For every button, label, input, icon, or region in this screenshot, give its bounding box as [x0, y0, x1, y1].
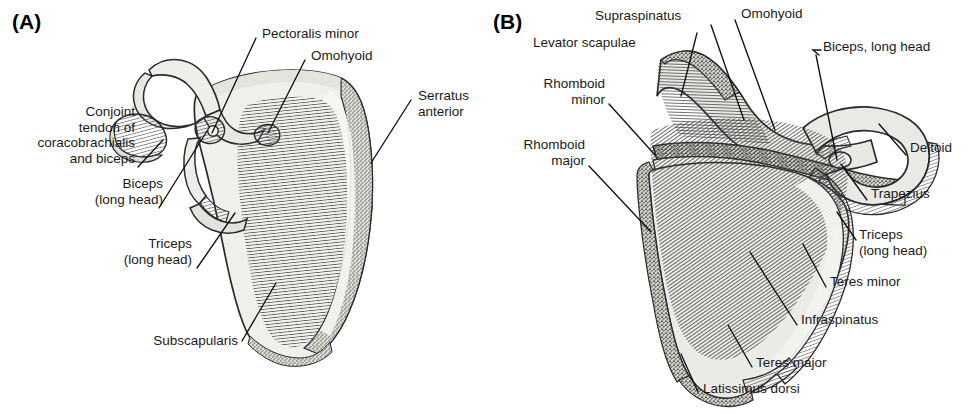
label-deltoid: Deltoid: [910, 140, 952, 156]
label-teres-minor: Teres minor: [830, 274, 901, 290]
label-teres-major: Teres major: [756, 355, 827, 371]
label-levator-scapulae: Levator scapulae: [533, 35, 636, 51]
label-omohyoid-b: Omohyoid: [741, 6, 803, 22]
panel-a-illustration: [0, 0, 485, 414]
label-pectoralis-minor: Pectoralis minor: [262, 26, 359, 42]
leader-rhomboid-minor: [609, 104, 655, 155]
label-latissimus-dorsi: Latissimus dorsi: [703, 381, 800, 397]
panel-a: (A): [0, 0, 485, 414]
label-omohyoid-a: Omohyoid: [311, 48, 373, 64]
label-conjoint-tendon: Conjoint tendon of coracobrachialis and …: [0, 104, 135, 166]
label-biceps-long-head-b: Biceps, long head: [823, 39, 930, 55]
panel-b-illustration: [485, 0, 969, 414]
acromion-a: [149, 59, 220, 116]
label-biceps-long-head-a: Biceps (long head): [0, 176, 163, 207]
panel-b: (B): [485, 0, 969, 414]
anatomy-figure: (A): [0, 0, 969, 414]
label-rhomboid-minor: Rhomboid minor: [485, 76, 605, 107]
label-triceps-long-head-b: Triceps (long head): [859, 227, 927, 258]
leader-serratus-anterior: [371, 100, 411, 163]
omohyoid-attachment-a: [254, 124, 279, 145]
leader-biceps-long-head-arrow: [813, 50, 821, 55]
label-subscapularis: Subscapularis: [0, 333, 238, 349]
label-rhomboid-major: Rhomboid major: [485, 137, 585, 168]
label-triceps-long-head-a: Triceps (long head): [0, 236, 192, 267]
label-supraspinatus: Supraspinatus: [595, 8, 681, 24]
label-serratus-anterior: Serratus anterior: [418, 88, 469, 119]
label-trapezius: Trapezius: [871, 186, 930, 202]
label-infraspinatus: Infraspinatus: [801, 312, 878, 328]
